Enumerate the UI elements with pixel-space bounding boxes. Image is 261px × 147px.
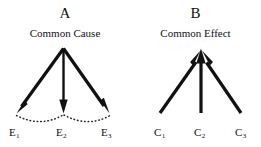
- node-label-c1: C1: [154, 126, 165, 139]
- dotted-arc-e1-e2: [17, 115, 64, 122]
- arrow-c2-to-effect: [196, 49, 205, 114]
- arrow-c3-to-effect: [202, 51, 241, 114]
- node-label-e1-sub: 1: [16, 132, 20, 140]
- node-label-e3: E3: [101, 126, 111, 139]
- arrow-cause-to-e2: [59, 49, 67, 114]
- dotted-arc-e2-e3: [64, 115, 110, 122]
- node-label-e1-base: E: [9, 126, 16, 138]
- node-label-c2-base: C: [194, 126, 201, 138]
- panel-a-diagram: [0, 0, 130, 147]
- node-label-c1-sub: 1: [162, 132, 166, 140]
- node-label-e3-sub: 3: [108, 132, 112, 140]
- node-label-c1-base: C: [154, 126, 161, 138]
- panel-b-common-effect: B Common Effect C1 C2 C3: [130, 0, 261, 147]
- panel-a-common-cause: A Common Cause E1 E2: [0, 0, 130, 147]
- node-label-e2: E2: [56, 126, 66, 139]
- node-label-c2: C2: [194, 126, 205, 139]
- node-label-c2-sub: 2: [202, 132, 206, 140]
- node-label-e3-base: E: [101, 126, 108, 138]
- panel-b-node-labels: C1 C2 C3: [130, 126, 261, 146]
- arrow-c1-to-effect: [160, 51, 201, 114]
- arrow-cause-to-e1: [17, 49, 64, 114]
- causal-structure-figure: A Common Cause E1 E2: [0, 0, 261, 147]
- node-label-c3-sub: 3: [243, 132, 247, 140]
- node-label-c3: C3: [235, 126, 246, 139]
- panel-b-diagram: [130, 0, 261, 147]
- node-label-e2-base: E: [56, 126, 63, 138]
- panel-a-node-labels: E1 E2 E3: [0, 126, 130, 146]
- node-label-e1: E1: [9, 126, 19, 139]
- node-label-e2-sub: 2: [63, 132, 67, 140]
- arrow-cause-to-e3: [64, 49, 110, 114]
- node-label-c3-base: C: [235, 126, 242, 138]
